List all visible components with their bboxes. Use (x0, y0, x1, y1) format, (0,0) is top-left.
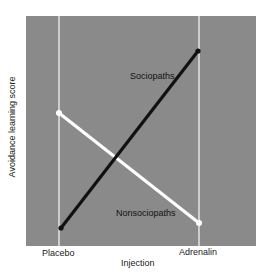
nonsociopaths-label: Nonsociopaths (116, 209, 176, 218)
sociopaths-adrenalin-marker (195, 48, 200, 53)
x-tick-adrenalin: Adrenalin (179, 248, 217, 257)
nonsociopaths-adrenalin-marker (196, 220, 202, 226)
sociopaths-placebo-marker (58, 225, 63, 230)
plot-svg (0, 0, 270, 277)
nonsociopaths-placebo-marker (56, 110, 62, 116)
sociopaths-label: Sociopaths (130, 72, 175, 81)
nonsociopaths-line (59, 113, 199, 223)
x-tick-placebo: Placebo (42, 249, 75, 258)
x-axis-title: Injection (121, 259, 155, 268)
line-chart: Sociopaths Nonsociopaths Placebo Adrenal… (0, 0, 270, 277)
y-axis-title: Avoidance learning score (8, 77, 17, 178)
